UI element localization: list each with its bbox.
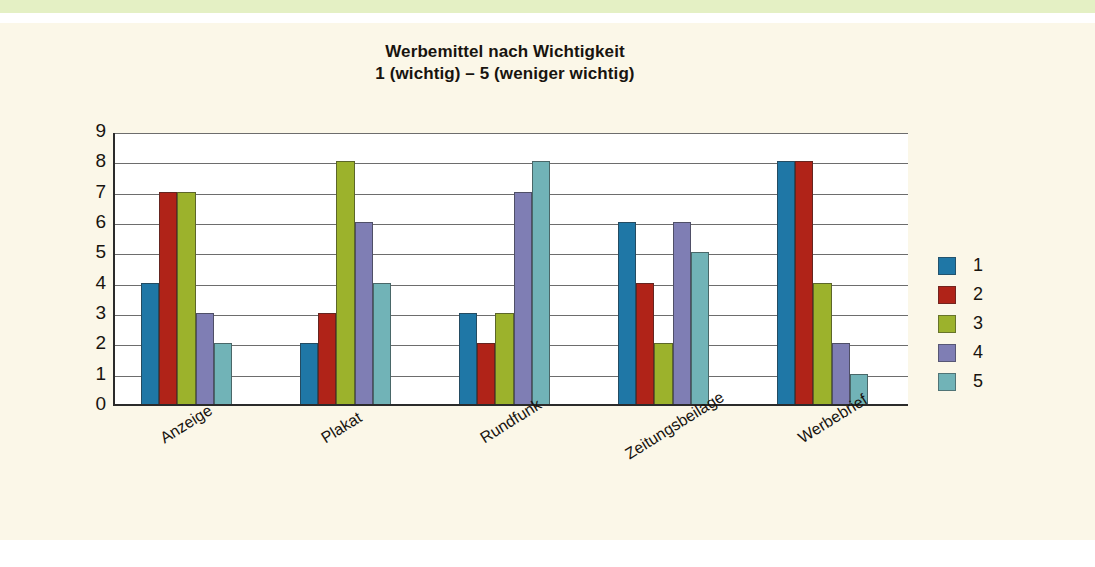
legend-label: 5 xyxy=(973,371,983,392)
x-axis-label: Anzeige xyxy=(157,401,216,447)
legend-label: 1 xyxy=(973,255,983,276)
y-tick-label: 7 xyxy=(66,181,106,203)
bar[interactable] xyxy=(196,313,214,404)
bar-slot xyxy=(373,133,391,404)
legend-swatch-icon xyxy=(938,286,956,304)
bar[interactable] xyxy=(495,313,513,404)
y-tick-label: 6 xyxy=(66,211,106,233)
bar-slot xyxy=(196,133,214,404)
chart-legend: 12345 xyxy=(938,251,1058,396)
y-tick-label: 9 xyxy=(66,120,106,142)
legend-swatch-icon xyxy=(938,344,956,362)
bar[interactable] xyxy=(691,252,709,404)
bar[interactable] xyxy=(832,343,850,404)
y-tick-label: 0 xyxy=(66,393,106,415)
bar-group xyxy=(141,133,232,404)
page-bottom-white-band xyxy=(0,540,1095,567)
bar[interactable] xyxy=(373,283,391,404)
bar[interactable] xyxy=(532,161,550,404)
bar-slot xyxy=(495,133,513,404)
y-tick-label: 4 xyxy=(66,272,106,294)
x-axis-category-labels: AnzeigePlakatRundfunkZeitungsbeilageWerb… xyxy=(113,406,908,536)
bar[interactable] xyxy=(795,161,813,404)
x-axis-label: Plakat xyxy=(318,408,365,447)
bar-group xyxy=(777,133,868,404)
bar-group xyxy=(618,133,709,404)
legend-item[interactable]: 4 xyxy=(938,338,1058,367)
page-top-white-band xyxy=(0,13,1095,23)
bar[interactable] xyxy=(673,222,691,404)
bar-slot xyxy=(636,133,654,404)
bar-slot xyxy=(832,133,850,404)
bar-slot xyxy=(477,133,495,404)
chart-title: Werbemittel nach Wichtigkeit 1 (wichtig)… xyxy=(0,41,1010,85)
legend-item[interactable]: 5 xyxy=(938,367,1058,396)
y-tick-label: 5 xyxy=(66,241,106,263)
bar[interactable] xyxy=(355,222,373,404)
bar-slot xyxy=(691,133,709,404)
page-root: Werbemittel nach Wichtigkeit 1 (wichtig)… xyxy=(0,0,1095,567)
legend-item[interactable]: 1 xyxy=(938,251,1058,280)
bar-slot xyxy=(177,133,195,404)
bar-slot xyxy=(777,133,795,404)
chart-title-line1: Werbemittel nach Wichtigkeit xyxy=(385,42,624,61)
bar-slot xyxy=(459,133,477,404)
bar-slot xyxy=(673,133,691,404)
legend-label: 3 xyxy=(973,313,983,334)
bar-slot xyxy=(300,133,318,404)
y-tick-label: 8 xyxy=(66,150,106,172)
bar[interactable] xyxy=(636,283,654,404)
bar[interactable] xyxy=(477,343,495,404)
bar-slot xyxy=(514,133,532,404)
legend-label: 4 xyxy=(973,342,983,363)
bar-slot xyxy=(355,133,373,404)
bar-slot xyxy=(336,133,354,404)
bar-slot xyxy=(532,133,550,404)
bar-slot xyxy=(850,133,868,404)
bar[interactable] xyxy=(459,313,477,404)
bar-group xyxy=(459,133,550,404)
bar[interactable] xyxy=(177,192,195,404)
bar-group xyxy=(300,133,391,404)
legend-swatch-icon xyxy=(938,373,956,391)
chart-title-line2: 1 (wichtig) – 5 (weniger wichtig) xyxy=(0,63,1010,85)
bar[interactable] xyxy=(514,192,532,404)
bar-slot xyxy=(654,133,672,404)
legend-label: 2 xyxy=(973,284,983,305)
bar-slot xyxy=(795,133,813,404)
y-tick-label: 2 xyxy=(66,332,106,354)
bar-slot xyxy=(141,133,159,404)
bar-slot xyxy=(318,133,336,404)
bar[interactable] xyxy=(336,161,354,404)
y-tick-label: 3 xyxy=(66,302,106,324)
chart-figure: Werbemittel nach Wichtigkeit 1 (wichtig)… xyxy=(0,23,1095,540)
bar-slot xyxy=(618,133,636,404)
page-top-green-band xyxy=(0,0,1095,13)
bar[interactable] xyxy=(300,343,318,404)
bar-slot xyxy=(214,133,232,404)
bar[interactable] xyxy=(159,192,177,404)
bar[interactable] xyxy=(618,222,636,404)
bar[interactable] xyxy=(214,343,232,404)
bar[interactable] xyxy=(141,283,159,404)
bar[interactable] xyxy=(318,313,336,404)
bar[interactable] xyxy=(654,343,672,404)
legend-item[interactable]: 2 xyxy=(938,280,1058,309)
legend-item[interactable]: 3 xyxy=(938,309,1058,338)
bar-slot xyxy=(813,133,831,404)
legend-swatch-icon xyxy=(938,257,956,275)
bar-slot xyxy=(159,133,177,404)
y-axis-tick-labels: 9876543210 xyxy=(58,133,106,406)
plot-area xyxy=(113,133,908,406)
bar[interactable] xyxy=(813,283,831,404)
bar[interactable] xyxy=(777,161,795,404)
legend-swatch-icon xyxy=(938,315,956,333)
y-tick-label: 1 xyxy=(66,363,106,385)
